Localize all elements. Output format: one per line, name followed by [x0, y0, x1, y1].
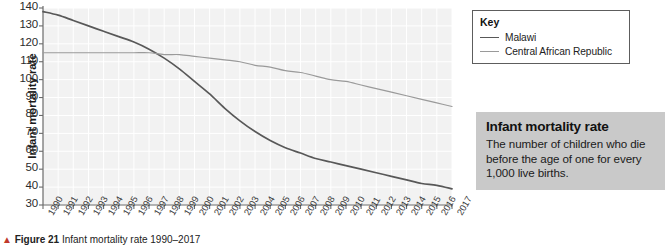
legend-color-swatch	[480, 37, 499, 38]
y-tick-label: 110	[4, 54, 38, 66]
caption-text: Infant mortality rate 1990–2017	[62, 234, 200, 245]
legend-item-label: Malawi	[505, 32, 536, 43]
figure-caption: ▲ Figure 21 Infant mortality rate 1990–2…	[2, 234, 200, 245]
y-axis-tick-labels: 14013012011010090807060504030	[0, 0, 38, 215]
legend-items: MalawiCentral African Republic	[480, 32, 622, 57]
chart-page: Infant mortality rate 140130120110100908…	[0, 0, 665, 247]
caption-label: Figure 21	[15, 234, 59, 245]
chart-legend: Key MalawiCentral African Republic	[472, 10, 630, 64]
legend-title: Key	[480, 16, 622, 28]
y-tick-label: 70	[4, 125, 38, 137]
y-tick-label: 30	[4, 197, 38, 209]
y-tick-label: 60	[4, 143, 38, 155]
y-tick-label: 80	[4, 107, 38, 119]
info-box: Infant mortality rate The number of chil…	[476, 112, 665, 190]
plot-area	[0, 0, 470, 215]
legend-item: Central African Republic	[480, 46, 622, 57]
caption-marker-icon: ▲	[2, 234, 12, 245]
legend-item: Malawi	[480, 32, 622, 43]
y-tick-label: 140	[4, 0, 38, 12]
y-tick-label: 90	[4, 90, 38, 102]
y-tick-label: 40	[4, 179, 38, 191]
info-box-text: The number of children who die before th…	[486, 137, 656, 181]
y-tick-label: 120	[4, 36, 38, 48]
legend-color-swatch	[480, 51, 499, 52]
y-tick-label: 100	[4, 72, 38, 84]
info-box-title: Infant mortality rate	[486, 119, 656, 134]
line-chart: Infant mortality rate 140130120110100908…	[0, 0, 470, 215]
legend-item-label: Central African Republic	[505, 46, 612, 57]
y-tick-label: 130	[4, 18, 38, 30]
y-tick-label: 50	[4, 161, 38, 173]
